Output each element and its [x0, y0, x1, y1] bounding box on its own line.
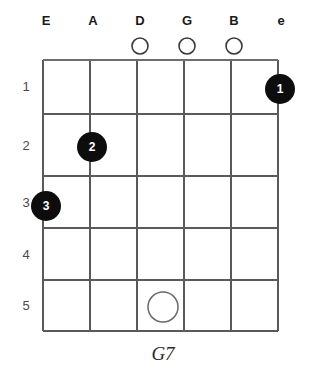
- finger-dot-label: 3: [43, 199, 50, 213]
- string-label-g: G: [182, 13, 192, 28]
- finger-dot-label: 1: [277, 82, 284, 96]
- fretboard-strings: [43, 60, 278, 331]
- string-label-low-e: E: [42, 13, 51, 28]
- open-string-marker-b: [226, 38, 242, 54]
- fret-number-4: 4: [22, 247, 29, 262]
- fretboard-frets: [43, 60, 278, 331]
- fret-number-5: 5: [22, 298, 29, 313]
- finger-dot-1-high-e-fret-1: 1: [265, 74, 295, 104]
- finger-dot-label: 2: [89, 140, 96, 154]
- open-string-markers: [132, 38, 242, 54]
- string-label-a: A: [88, 13, 98, 28]
- open-string-marker-d: [132, 38, 148, 54]
- fret-numbers: 1 2 3 4 5: [22, 79, 29, 313]
- hollow-dot-circle: [148, 292, 178, 322]
- fret-number-2: 2: [22, 138, 29, 153]
- string-label-high-e: e: [277, 13, 284, 28]
- string-label-b: B: [229, 13, 238, 28]
- fret-number-1: 1: [22, 79, 29, 94]
- string-label-d: D: [135, 13, 144, 28]
- finger-dot-3-low-e-fret-3: 3: [31, 191, 61, 221]
- finger-dot-2-a-fret-2: 2: [77, 132, 107, 162]
- hollow-dot-d-fret-5: [148, 292, 178, 322]
- fret-number-3: 3: [22, 195, 29, 210]
- open-string-marker-g: [179, 38, 195, 54]
- chord-diagram: E A D G B e 1 2 3 4 5: [0, 0, 311, 385]
- string-labels: E A D G B e: [42, 13, 285, 28]
- chord-name: G7: [151, 343, 176, 364]
